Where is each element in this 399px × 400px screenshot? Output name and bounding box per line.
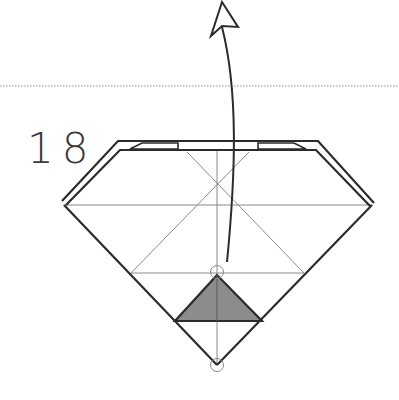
- crease-lines: [65, 150, 372, 365]
- gray-flap: [175, 275, 262, 321]
- top-pockets: [130, 143, 306, 149]
- model-outline: [62, 141, 374, 365]
- fold-up-arrow-icon: [211, 2, 238, 262]
- origami-diagram: [0, 0, 399, 400]
